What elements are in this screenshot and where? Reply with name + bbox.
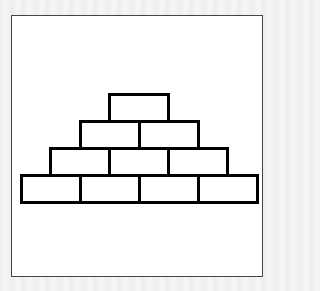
brick xyxy=(79,174,141,204)
brick xyxy=(138,120,200,150)
brick xyxy=(108,147,170,177)
diagram-frame xyxy=(11,15,263,277)
brick xyxy=(138,174,200,204)
brick xyxy=(49,147,111,177)
brick xyxy=(79,120,141,150)
brick xyxy=(167,147,229,177)
brick xyxy=(20,174,82,204)
brick xyxy=(197,174,259,204)
brick xyxy=(108,93,170,123)
